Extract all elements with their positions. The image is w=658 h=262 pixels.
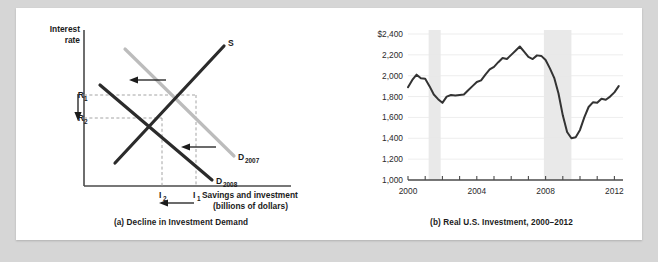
y-tick-label-2200: 2,200 [382, 50, 403, 60]
demand-2008-subscript: 2008 [223, 181, 238, 188]
real-investment-line-chart: 1,0001,2001,4001,6001,8002,0002,200$2,40… [361, 8, 642, 216]
y-tick-label-1200: 1,200 [382, 154, 403, 164]
invest-low-label: I [159, 190, 161, 200]
x-tick-label-2008: 2008 [536, 186, 555, 196]
rate-high-subscript: 1 [84, 95, 88, 102]
x-tick-label-2000: 2000 [399, 186, 418, 196]
y-axis-label-line1: Interest [50, 24, 80, 34]
supply-curve-label: S [228, 38, 234, 48]
recession-band-1 [544, 30, 572, 180]
x-axis-label-line2: (billions of dollars) [213, 201, 288, 211]
y-tick-labels-group: 1,0001,2001,4001,6001,8002,0002,200$2,40… [377, 29, 403, 185]
y-tick-label-1600: 1,600 [382, 112, 403, 122]
x-tick-label-2012: 2012 [605, 186, 624, 196]
invest-high-label: I [193, 190, 195, 200]
panel-a-caption: (a) Decline in Investment Demand [16, 218, 346, 227]
x-tick-label-2004: 2004 [467, 186, 486, 196]
demand-2007-label: D [238, 152, 244, 162]
x-tick-labels-group: 2000200420082012 [399, 186, 624, 196]
shift-arrow-lower-head [181, 143, 190, 150]
invest-low-subscript: 2 [163, 195, 167, 202]
demand-curve-2008 [100, 85, 212, 180]
panel-b-caption: (b) Real U.S. Investment, 2000–2012 [361, 218, 642, 227]
y-tick-label-1400: 1,400 [382, 133, 403, 143]
figure-panel: Interest rate R 1 R 2 S D 2007 D 2008 I … [16, 8, 642, 240]
panel-b-real-investment: 1,0001,2001,4001,6001,8002,0002,200$2,40… [361, 8, 642, 240]
demand-2007-subscript: 2007 [245, 157, 260, 164]
y-tick-label-1800: 1,800 [382, 92, 403, 102]
recession-band-0 [429, 30, 441, 180]
demand-curve-2007 [125, 49, 234, 156]
recession-bands-group [429, 30, 572, 180]
invest-high-subscript: 1 [197, 195, 201, 202]
x-axis-label-line1: Savings and investment [202, 190, 298, 200]
demand-2008-label: D [216, 176, 222, 186]
y-axis-label-line2: rate [65, 35, 81, 45]
rate-low-subscript: 2 [84, 118, 88, 125]
panel-a-diagram: Interest rate R 1 R 2 S D 2007 D 2008 I … [16, 8, 346, 216]
y-tick-label-1000: 1,000 [382, 175, 403, 185]
shift-arrow-upper-head [129, 76, 138, 83]
panel-a-investment-demand: Interest rate R 1 R 2 S D 2007 D 2008 I … [16, 8, 346, 240]
y-tick-label-2400: $2,400 [377, 29, 403, 39]
y-tick-label-2000: 2,000 [382, 71, 403, 81]
